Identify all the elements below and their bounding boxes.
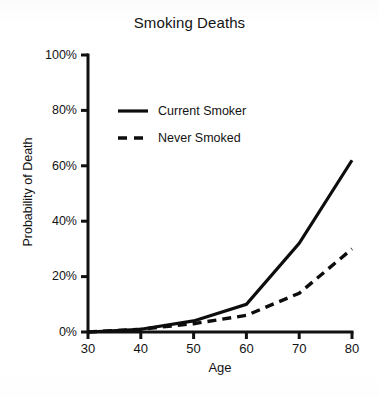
x-tick-label: 70 [292, 341, 306, 356]
series-line-never-smoked [88, 249, 352, 332]
y-tick-label: 80% [52, 103, 77, 117]
chart-figure: Smoking Deaths Probability of Death Age … [0, 0, 379, 397]
y-axis-ticks: 0%20%40%60%80%100% [45, 48, 88, 339]
legend-label-never-smoked: Never Smoked [158, 131, 241, 145]
x-tick-label: 60 [239, 341, 253, 356]
axis-lines [88, 55, 352, 332]
plot-area: 0%20%40%60%80%100% 304050607080 Current … [0, 0, 379, 397]
data-series-group [88, 160, 352, 332]
x-tick-label: 30 [81, 341, 95, 356]
y-tick-label: 100% [45, 48, 77, 62]
x-tick-label: 40 [134, 341, 148, 356]
x-axis-ticks: 304050607080 [81, 332, 359, 356]
x-tick-label: 80 [345, 341, 359, 356]
y-tick-label: 40% [52, 214, 77, 228]
x-tick-label: 50 [186, 341, 200, 356]
y-tick-label: 20% [52, 269, 77, 283]
y-tick-label: 60% [52, 159, 77, 173]
legend-label-current-smoker: Current Smoker [158, 104, 246, 118]
series-line-current-smoker [88, 160, 352, 332]
chart-legend: Current SmokerNever Smoked [118, 104, 246, 145]
y-tick-label: 0% [59, 325, 77, 339]
